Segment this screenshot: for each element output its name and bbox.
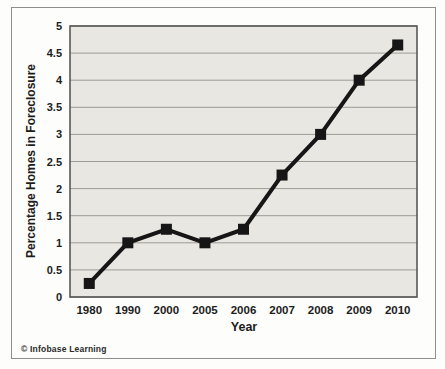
y-tick-label: 0.5 bbox=[47, 264, 62, 276]
y-tick-label: 3 bbox=[56, 128, 62, 140]
data-point-marker bbox=[392, 39, 403, 50]
line-chart: 00.511.522.533.544.551980199020002005200… bbox=[0, 0, 445, 369]
data-point-marker bbox=[84, 278, 95, 289]
x-tick-label: 2007 bbox=[269, 304, 295, 316]
x-axis-title: Year bbox=[231, 320, 257, 334]
y-tick-label: 1 bbox=[56, 237, 62, 249]
data-point-marker bbox=[199, 237, 210, 248]
y-tick-label: 3.5 bbox=[47, 101, 62, 113]
y-tick-label: 0 bbox=[56, 291, 62, 303]
copyright-text: © Infobase Learning bbox=[21, 344, 107, 354]
y-tick-label: 2 bbox=[56, 183, 62, 195]
data-point-marker bbox=[122, 237, 133, 248]
page: Percentage Homes in Foreclosure 00.511.5… bbox=[0, 0, 445, 369]
x-tick-label: 2005 bbox=[192, 304, 218, 316]
x-tick-label: 2010 bbox=[385, 304, 411, 316]
data-point-marker bbox=[354, 75, 365, 86]
x-tick-label: 2008 bbox=[308, 304, 334, 316]
data-point-marker bbox=[277, 170, 288, 181]
y-tick-label: 4.5 bbox=[47, 47, 62, 59]
x-tick-label: 1990 bbox=[115, 304, 141, 316]
x-tick-label: 2009 bbox=[346, 304, 372, 316]
data-point-marker bbox=[161, 224, 172, 235]
y-tick-label: 2.5 bbox=[47, 156, 62, 168]
y-tick-label: 1.5 bbox=[47, 210, 62, 222]
x-tick-label: 2006 bbox=[231, 304, 257, 316]
x-tick-label: 2000 bbox=[154, 304, 180, 316]
data-point-marker bbox=[315, 129, 326, 140]
y-tick-label: 5 bbox=[56, 20, 62, 32]
y-tick-label: 4 bbox=[56, 74, 63, 86]
data-point-marker bbox=[238, 224, 249, 235]
x-tick-label: 1980 bbox=[76, 304, 102, 316]
